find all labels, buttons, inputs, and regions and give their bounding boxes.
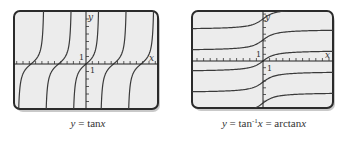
caption-x2: x <box>301 117 306 129</box>
tan-chart-panel: y x 1 1 y = tanx <box>0 0 176 116</box>
arctan-chart-panel: y x 1 1 y = tan-1x = arctanx <box>176 0 352 116</box>
y-axis-label: y <box>264 12 271 22</box>
caption-eq2: = arctan <box>263 117 302 129</box>
x-tick-label: 1 <box>90 66 95 75</box>
caption-eq: = tan <box>227 117 252 129</box>
y-tick-label: 1 <box>79 53 84 62</box>
arctan-caption: y = tan-1x = arctanx <box>176 117 352 129</box>
tan-chart: y x 1 1 <box>0 0 176 116</box>
caption-eq: = tan <box>75 117 100 129</box>
x-axis-label: x <box>149 53 154 63</box>
arctan-chart: y x 1 1 <box>176 0 352 116</box>
caption-x: x <box>101 117 106 129</box>
y-tick-label: 1 <box>256 50 261 59</box>
x-axis-label: x <box>325 50 330 60</box>
y-axis-label: y <box>87 12 94 22</box>
x-tick-label: 1 <box>267 64 272 73</box>
tan-caption: y = tanx <box>0 117 176 129</box>
